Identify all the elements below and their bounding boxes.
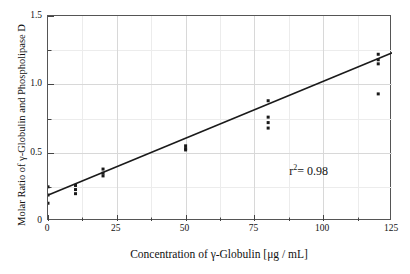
y-tick-label: 0.5 xyxy=(12,146,42,158)
x-tick-label: 25 xyxy=(99,223,133,233)
y-tick-label: 0 xyxy=(12,214,42,226)
data-point xyxy=(102,174,105,177)
data-point xyxy=(48,194,50,197)
plot-canvas xyxy=(48,16,392,221)
r-squared-value: = 0.98 xyxy=(297,164,328,178)
y-tick-label: 1.0 xyxy=(12,77,42,89)
x-tick-label: 100 xyxy=(305,223,339,233)
data-point xyxy=(184,148,187,151)
data-point xyxy=(74,184,77,187)
x-axis-title: Concentration of γ-Globulin [μg / mL] xyxy=(47,248,391,260)
x-tick-label: 50 xyxy=(168,223,202,233)
data-point xyxy=(267,121,270,124)
data-point xyxy=(267,99,270,102)
data-point xyxy=(267,127,270,130)
plot-area xyxy=(47,15,391,220)
data-point xyxy=(377,53,380,56)
data-point xyxy=(102,172,105,175)
data-point xyxy=(102,168,105,171)
data-point xyxy=(377,58,380,61)
data-point xyxy=(48,185,50,188)
data-point xyxy=(377,62,380,65)
data-point xyxy=(184,144,187,147)
data-point xyxy=(377,92,380,95)
x-tick-label: 125 xyxy=(374,223,408,233)
data-point xyxy=(48,202,50,205)
x-tick-label: 75 xyxy=(236,223,270,233)
data-point xyxy=(74,192,77,195)
scatter-plot-figure: Molar Ratio of γ-Globulin and Phospholip… xyxy=(0,0,410,274)
data-point xyxy=(74,188,77,191)
y-tick-label: 1.5 xyxy=(12,9,42,21)
r-squared-annotation: r2= 0.98 xyxy=(289,163,328,179)
y-axis-title: Molar Ratio of γ-Globulin and Phospholip… xyxy=(14,5,30,245)
data-point xyxy=(267,116,270,119)
